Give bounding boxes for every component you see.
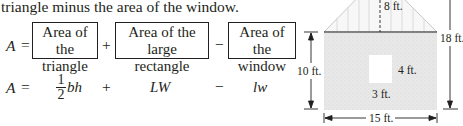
roof-height-label: 8 ft.: [384, 0, 403, 12]
width-label: 15 ft.: [369, 112, 393, 124]
window-height-label: 4 ft.: [398, 64, 417, 76]
window-width-label: 3 ft.: [372, 88, 391, 100]
house-wall-figure: 8 ft. 4 ft. 3 ft. 10 ft. 18 ft. 15 ft.: [0, 0, 463, 126]
total-height-label: 18 ft.: [440, 32, 463, 44]
window-rectangle: [369, 55, 392, 83]
roof-triangle: [324, 0, 437, 32]
total-height-dimension: [443, 0, 458, 109]
wall-height-label: 10 ft.: [297, 65, 321, 77]
